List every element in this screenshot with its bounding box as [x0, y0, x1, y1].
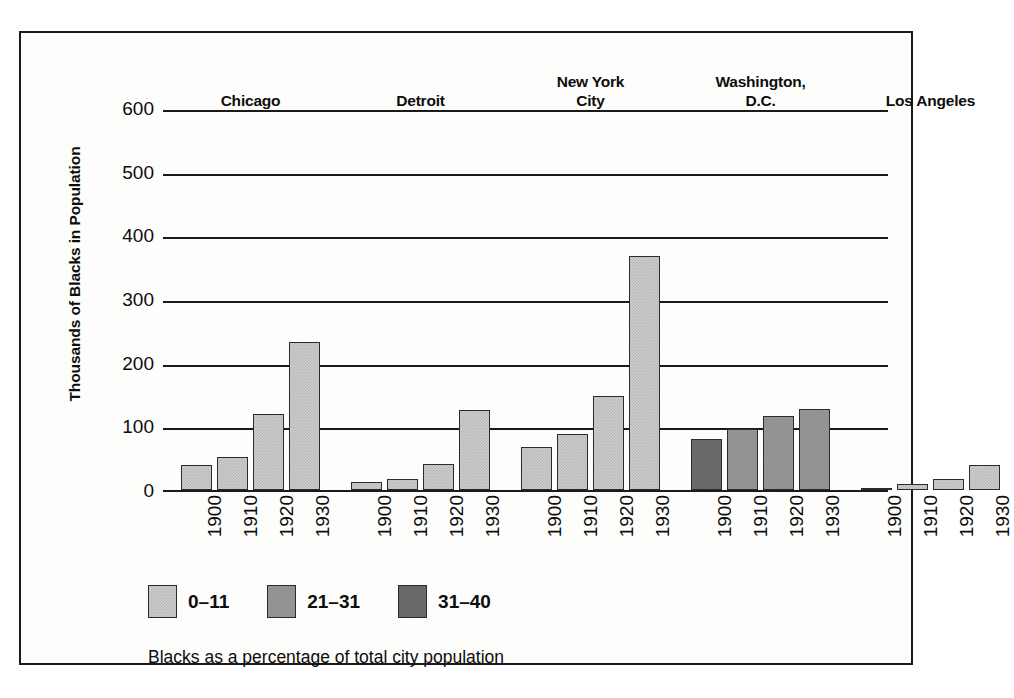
plot-area: 6005004003002001000: [163, 110, 888, 492]
year-label-1920: 1920: [786, 495, 808, 567]
bar-chicago-1930: [289, 342, 320, 490]
y-tick-label-100: 100: [122, 416, 154, 438]
legend-label-medium: 21–31: [307, 591, 360, 613]
year-label-1920: 1920: [956, 495, 978, 567]
bar-detroit-1930: [459, 410, 490, 490]
x-axis-baseline: [163, 490, 888, 492]
year-label-1930: 1930: [312, 495, 334, 567]
year-label-1910: 1910: [410, 495, 432, 567]
x-axis-year-labels: 1900191019201930190019101920193019001910…: [163, 495, 888, 567]
y-tick-label-500: 500: [122, 162, 154, 184]
y-axis-title: Thousands of Blacks in Population: [66, 124, 84, 424]
year-label-1900: 1900: [714, 495, 736, 567]
legend-label-light: 0–11: [188, 591, 229, 613]
year-label-1930: 1930: [482, 495, 504, 567]
legend-item-dark: 31–40: [398, 585, 491, 618]
year-label-1910: 1910: [750, 495, 772, 567]
legend-swatch-dark: [398, 585, 427, 618]
year-label-1920: 1920: [446, 495, 468, 567]
legend-swatch-medium: [267, 585, 296, 618]
y-tick-label-300: 300: [122, 289, 154, 311]
bar-chicago-1900: [181, 465, 212, 490]
legend-label-dark: 31–40: [438, 591, 491, 613]
bar-new-york-city-1900: [521, 447, 552, 490]
bar-new-york-city-1910: [557, 434, 588, 490]
y-tick-label-0: 0: [143, 480, 154, 502]
year-label-1930: 1930: [652, 495, 674, 567]
bar-chicago-1920: [253, 414, 284, 490]
y-tick-label-400: 400: [122, 225, 154, 247]
bar-detroit-1910: [387, 479, 418, 490]
bar-washington-d-c-1930: [799, 409, 830, 490]
bar-washington-d-c-1910: [727, 429, 758, 490]
y-tick-label-200: 200: [122, 353, 154, 375]
gridline-400: [163, 237, 888, 239]
year-label-1910: 1910: [920, 495, 942, 567]
bar-detroit-1900: [351, 482, 382, 490]
legend-item-medium: 21–31: [267, 585, 360, 618]
bar-chicago-1910: [217, 457, 248, 490]
year-label-1900: 1900: [204, 495, 226, 567]
bar-new-york-city-1930: [629, 256, 660, 490]
year-label-1900: 1900: [374, 495, 396, 567]
gridline-600: [163, 110, 888, 112]
bar-los-angeles-1930: [969, 465, 1000, 490]
legend-caption: Blacks as a percentage of total city pop…: [148, 647, 504, 668]
legend-item-light: 0–11: [148, 585, 229, 618]
y-tick-label-600: 600: [122, 98, 154, 120]
year-label-1910: 1910: [240, 495, 262, 567]
chart-legend: 0–1121–3131–40: [148, 585, 491, 618]
year-label-1930: 1930: [822, 495, 844, 567]
bar-washington-d-c-1920: [763, 416, 794, 490]
gridline-500: [163, 174, 888, 176]
year-label-1910: 1910: [580, 495, 602, 567]
gridline-200: [163, 365, 888, 367]
year-label-1920: 1920: [276, 495, 298, 567]
year-label-1900: 1900: [544, 495, 566, 567]
bar-new-york-city-1920: [593, 396, 624, 490]
gridline-300: [163, 301, 888, 303]
bar-los-angeles-1920: [933, 479, 964, 490]
bar-detroit-1920: [423, 464, 454, 490]
year-label-1900: 1900: [884, 495, 906, 567]
year-label-1920: 1920: [616, 495, 638, 567]
city-header-row: ChicagoDetroitNew YorkCityWashington,D.C…: [163, 61, 888, 110]
city-header-los-angeles: Los Angeles: [821, 92, 1014, 110]
year-label-1930: 1930: [992, 495, 1014, 567]
bar-los-angeles-1910: [897, 484, 928, 490]
bar-washington-d-c-1900: [691, 439, 722, 490]
legend-swatch-light: [148, 585, 177, 618]
chart-figure-frame: Thousands of Blacks in Population Chicag…: [19, 31, 913, 665]
